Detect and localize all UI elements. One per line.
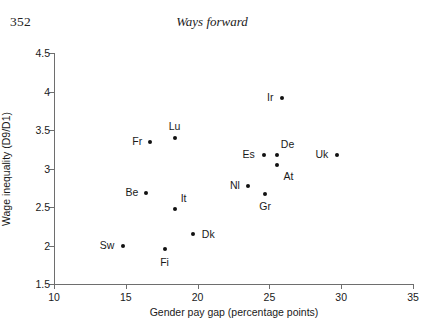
data-point-label: Nl [230, 179, 240, 191]
y-axis-tick-label: 2.5 [35, 201, 50, 213]
data-point [163, 247, 167, 251]
data-point-label: At [284, 170, 294, 182]
data-point-label: Fr [132, 135, 142, 147]
x-axis-tick-label: 35 [407, 291, 419, 303]
y-axis-tick-label: 1.5 [35, 278, 50, 290]
y-axis-tick-label: 3 [44, 163, 50, 175]
data-point-label: Es [243, 148, 255, 160]
data-point [335, 153, 339, 157]
data-point [121, 244, 125, 248]
data-point [144, 191, 148, 195]
x-axis-tick-mark [341, 284, 342, 289]
page-header: 352 Ways forward [0, 14, 424, 32]
data-point [280, 96, 284, 100]
x-axis-tick-mark [126, 284, 127, 289]
data-point [173, 136, 177, 140]
data-point [263, 192, 267, 196]
x-axis-tick-label: 30 [335, 291, 347, 303]
data-point-label: Dk [202, 228, 215, 240]
data-point-label: Sw [100, 239, 115, 251]
data-point [173, 207, 177, 211]
x-axis-tick-label: 10 [48, 291, 60, 303]
data-point-label: Fi [160, 256, 169, 268]
y-axis-tick-label: 4.5 [35, 47, 50, 59]
x-axis-label: Gender pay gap (percentage points) [54, 306, 414, 318]
y-axis-tick-label: 2 [44, 240, 50, 252]
running-title: Ways forward [0, 14, 424, 30]
y-axis-label: Wage inequality (D9/D1) [0, 112, 12, 226]
data-point-label: Uk [315, 148, 328, 160]
x-axis-tick-label: 15 [120, 291, 132, 303]
data-point-label: Lu [169, 120, 181, 132]
x-axis-tick-mark [269, 284, 270, 289]
y-axis-tick-label: 4 [44, 86, 50, 98]
x-axis-tick-label: 20 [192, 291, 204, 303]
data-point-label: It [181, 192, 187, 204]
x-axis-tick-mark [198, 284, 199, 289]
x-axis-tick-mark [54, 284, 55, 289]
data-point-label: Be [125, 186, 138, 198]
data-point-label: De [281, 138, 294, 150]
data-point-label: Ir [267, 91, 273, 103]
x-axis-line [54, 284, 414, 285]
x-axis-tick-mark [413, 284, 414, 289]
scatter-chart: Wage inequality (D9/D1) Gender pay gap (… [0, 38, 424, 323]
data-point [148, 140, 152, 144]
data-point-label: Gr [259, 200, 271, 212]
x-axis-tick-label: 25 [264, 291, 276, 303]
y-axis-tick-label: 3.5 [35, 124, 50, 136]
data-point [275, 163, 279, 167]
